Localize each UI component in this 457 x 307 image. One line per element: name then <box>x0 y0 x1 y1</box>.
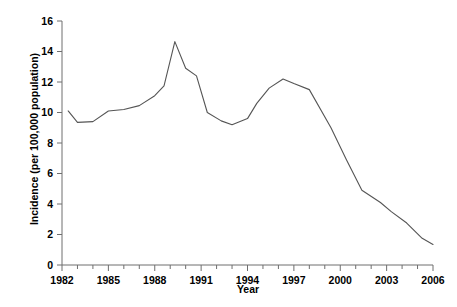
y-axis-ticks: 0246810121416 <box>41 15 62 271</box>
x-tick-label: 1985 <box>97 274 121 286</box>
plot-area: 0246810121416 19821985198819911994199720… <box>0 0 457 307</box>
y-tick-label: 10 <box>41 106 53 118</box>
x-axis-ticks: 198219851988199119941997200020032006 <box>50 265 445 286</box>
chart-figure: Incidence (per 100,000 population) Year … <box>0 0 457 307</box>
x-tick-label: 1994 <box>236 274 260 286</box>
x-tick-label: 2000 <box>329 274 353 286</box>
y-tick-label: 4 <box>47 198 53 210</box>
x-tick-label: 1991 <box>189 274 213 286</box>
x-tick-label: 2003 <box>375 274 399 286</box>
x-tick-label: 1982 <box>50 274 74 286</box>
x-tick-label: 2006 <box>421 274 445 286</box>
x-tick-label: 1997 <box>282 274 306 286</box>
y-tick-label: 14 <box>41 45 53 57</box>
x-tick-label: 1988 <box>143 274 167 286</box>
y-tick-label: 16 <box>41 15 53 27</box>
y-tick-label: 8 <box>47 137 53 149</box>
line-chart-svg: 0246810121416 19821985198819911994199720… <box>0 0 457 307</box>
y-tick-label: 12 <box>41 76 53 88</box>
y-tick-label: 6 <box>47 167 53 179</box>
y-tick-label: 2 <box>47 228 53 240</box>
incidence-line-series <box>68 42 433 245</box>
y-tick-label: 0 <box>47 259 53 271</box>
